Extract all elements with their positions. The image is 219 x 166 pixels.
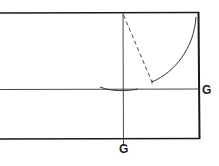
diagram-canvas: [0, 0, 219, 166]
dashed-radius-line: [124, 15, 153, 82]
top-border-line: [0, 13, 199, 14]
point-label-right-g: G: [202, 84, 211, 96]
right-border-line: [199, 12, 200, 139]
horizontal-guide-line: [0, 89, 200, 90]
point-label-bottom-g: G: [119, 143, 128, 155]
quarter-arc-curve: [152, 17, 196, 82]
vertical-guide-line: [123, 13, 124, 146]
bottom-border-line: [0, 139, 200, 140]
